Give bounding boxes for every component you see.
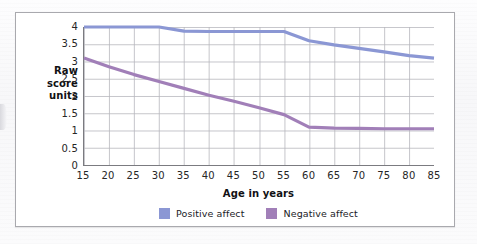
y-axis-tick-labels: 00.511.522.533.54	[16, 27, 78, 166]
x-tick-label: 70	[352, 171, 365, 181]
y-tick-label: 0.5	[61, 144, 78, 154]
y-tick-label: 2	[71, 92, 78, 102]
figure-panel: Raw score units 00.511.522.533.54 152025…	[15, 12, 455, 227]
legend-item[interactable]: Positive affect	[159, 208, 244, 219]
x-tick-label: 65	[327, 171, 340, 181]
chart-legend: Positive affectNegative affect	[83, 205, 434, 221]
page-background: Raw score units 00.511.522.533.54 152025…	[0, 0, 477, 244]
legend-swatch-icon	[159, 208, 170, 219]
series-line-1	[84, 27, 434, 58]
plot-area	[83, 27, 434, 166]
line-chart: Raw score units 00.511.522.533.54 152025…	[16, 13, 456, 228]
x-tick-label: 55	[277, 171, 290, 181]
x-axis-title: Age in years	[83, 188, 434, 199]
x-tick-label: 75	[377, 171, 390, 181]
series-line-2	[84, 58, 434, 129]
y-tick-label: 1	[71, 126, 78, 136]
legend-label: Positive affect	[176, 208, 244, 219]
x-tick-label: 25	[127, 171, 140, 181]
x-tick-label: 50	[252, 171, 265, 181]
x-tick-label: 45	[227, 171, 240, 181]
y-tick-label: 2.5	[61, 74, 78, 84]
x-tick-label: 35	[177, 171, 190, 181]
y-tick-label: 3	[71, 57, 78, 67]
x-tick-label: 30	[152, 171, 165, 181]
legend-label: Negative affect	[283, 208, 357, 219]
y-tick-label: 4	[71, 22, 78, 32]
y-tick-label: 3.5	[61, 39, 78, 49]
x-tick-label: 20	[102, 171, 115, 181]
y-tick-label: 1.5	[61, 109, 78, 119]
x-tick-label: 40	[202, 171, 215, 181]
x-tick-label: 80	[402, 171, 415, 181]
page-edge-artifact	[0, 104, 7, 130]
x-tick-label: 85	[427, 171, 440, 181]
legend-item[interactable]: Negative affect	[266, 208, 357, 219]
x-axis-tick-labels: 152025303540455055606570758085	[83, 171, 434, 185]
x-tick-label: 15	[76, 171, 89, 181]
data-series-layer	[84, 27, 434, 165]
x-tick-label: 60	[302, 171, 315, 181]
legend-swatch-icon	[266, 208, 277, 219]
